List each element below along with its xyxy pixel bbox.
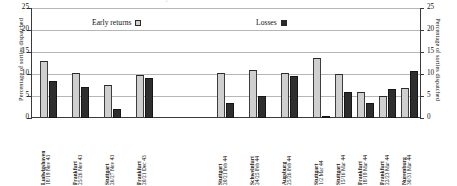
x-axis-label: Schweinfurt24/25 Feb 44: [250, 121, 261, 185]
x-axis-label-date: 22/23 Mar 44: [385, 121, 390, 185]
bar-group: [400, 8, 420, 118]
x-axis-label-text: Frankfurt20/21 Dec 43: [137, 121, 147, 185]
x-axis-label: Ludwigshaven18/19 Nov 43: [41, 121, 52, 185]
x-axis-label-text: Stuttgart1/2 Mar 44: [314, 121, 324, 185]
bar-losses: [410, 71, 418, 118]
bar-group: [334, 8, 354, 118]
x-axis-label-date: 20/21 Dec 43: [142, 121, 147, 185]
x-axis-label-text: Stuttgart20/21 Feb 44: [218, 121, 228, 185]
x-axis-labels: Ludwigshaven18/19 Nov 43Frankfurt25/26 N…: [31, 119, 421, 186]
x-axis-label-text: Ludwigshaven18/19 Nov 43: [41, 121, 51, 185]
x-axis-label-date: 25/26 Feb 44: [287, 121, 292, 185]
bars-layer: [31, 8, 421, 118]
y-tick-label-r-15: 15: [427, 48, 434, 55]
y-tick-label-r-5: 5: [427, 92, 431, 99]
bar-early-returns: [401, 88, 409, 118]
x-axis-label-date: 1/2 Mar 44: [319, 121, 324, 185]
bar-early-returns: [40, 61, 48, 118]
x-axis-label: Stuttgart20/21 Feb 44: [218, 121, 229, 185]
bar-group: [135, 8, 155, 118]
bar-group: [39, 8, 59, 118]
x-axis-label: Stuttgart26/27 Nov 43: [105, 121, 116, 185]
bar-early-returns: [281, 73, 289, 118]
y-tick-label-l-5: 5: [25, 92, 29, 99]
y-axis-title-right: Percentage of sorties dispatched: [435, 10, 442, 110]
bar-losses: [145, 78, 153, 118]
x-axis-label-date: 18/19 Mar 44: [363, 121, 368, 185]
bar-group: [280, 8, 300, 118]
clipped-title-strip: Early returns Losses: [0, 0, 457, 7]
bar-losses: [344, 92, 352, 118]
plot-area: 25252020151510105500: [31, 8, 421, 118]
bar-group: [71, 8, 91, 118]
bar-early-returns: [72, 73, 80, 118]
bar-early-returns: [249, 70, 257, 118]
bar-losses: [290, 76, 298, 118]
x-axis-label-date: 25/26 Nov 43: [78, 121, 83, 185]
y-tick-label-r-10: 10: [427, 70, 434, 77]
x-axis-label-text: Frankfurt25/26 Nov 43: [73, 121, 83, 185]
x-axis-label-text: Stuttgart26/27 Nov 43: [105, 121, 115, 185]
x-axis-label: Stuttgart15/16 Mar 44: [336, 121, 347, 185]
x-axis-label-date: 20/21 Feb 44: [223, 121, 228, 185]
x-axis-label-text: Augsburg25/26 Feb 44: [282, 121, 292, 185]
bar-group: [312, 8, 332, 118]
y-tick-label-l-25: 25: [22, 4, 29, 11]
clipped-title-text: Early returns Losses: [150, 0, 225, 2]
bar-losses: [226, 103, 234, 118]
bar-group: [378, 8, 398, 118]
bar-early-returns: [136, 75, 144, 118]
bar-losses: [113, 109, 121, 118]
x-axis-label: Frankfurt25/26 Nov 43: [73, 121, 84, 185]
x-axis-label: Nuremburg30/31 Mar 44: [402, 121, 413, 185]
bar-losses: [258, 96, 266, 118]
bar-early-returns: [313, 58, 321, 118]
x-axis-label-date: 18/19 Nov 43: [46, 121, 51, 185]
bar-group: [356, 8, 376, 118]
x-axis-label-date: 15/16 Mar 44: [341, 121, 346, 185]
y-tick-label-r-25: 25: [427, 4, 434, 11]
x-axis-label-text: Schweinfurt24/25 Feb 44: [250, 121, 260, 185]
bar-losses: [49, 81, 57, 118]
x-axis-label-text: Stuttgart15/16 Mar 44: [336, 121, 346, 185]
chart-root: Early returns Losses Percentage of sorti…: [0, 0, 457, 186]
bar-group: [103, 8, 123, 118]
bar-group: [248, 8, 268, 118]
y-tick-label-r-20: 20: [427, 26, 434, 33]
bar-losses: [366, 103, 374, 118]
bar-early-returns: [357, 92, 365, 118]
y-tick-label-r-0: 0: [427, 114, 431, 121]
bar-early-returns: [104, 85, 112, 118]
x-axis-label: Frankfurt18/19 Mar 44: [358, 121, 369, 185]
x-axis-label-text: Frankfurt18/19 Mar 44: [358, 121, 368, 185]
bar-early-returns: [217, 73, 225, 118]
x-axis-label: Frankfurt20/21 Dec 43: [137, 121, 148, 185]
x-axis-label-text: Nuremburg30/31 Mar 44: [402, 121, 412, 185]
x-axis-label-date: 26/27 Nov 43: [110, 121, 115, 185]
x-axis-label: Stuttgart1/2 Mar 44: [314, 121, 325, 185]
x-axis-label: Frankfurt22/23 Mar 44: [380, 121, 391, 185]
bar-losses: [81, 87, 89, 118]
bar-losses: [322, 116, 330, 118]
x-axis-label-text: Frankfurt22/23 Mar 44: [380, 121, 390, 185]
bar-early-returns: [379, 96, 387, 118]
x-axis-label-date: 30/31 Mar 44: [407, 121, 412, 185]
bar-group: [216, 8, 236, 118]
y-tick-label-l-0: 0: [25, 114, 29, 121]
x-axis-label-date: 24/25 Feb 44: [255, 121, 260, 185]
y-tick-label-l-10: 10: [22, 70, 29, 77]
y-tick-label-l-15: 15: [22, 48, 29, 55]
bar-losses: [388, 89, 396, 118]
x-axis-label: Augsburg25/26 Feb 44: [282, 121, 293, 185]
bar-early-returns: [335, 74, 343, 118]
y-tick-label-l-20: 20: [22, 26, 29, 33]
